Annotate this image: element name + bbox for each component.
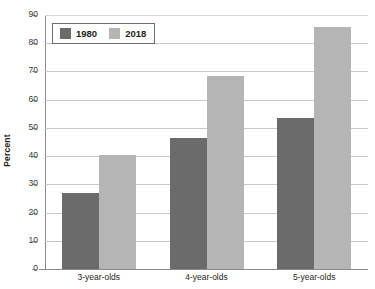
legend-entry-1980[interactable]: 1980 [60,28,97,39]
y-tick-label: 20 [12,208,38,217]
y-tick-label: 60 [12,95,38,104]
bar-2018-4-year-olds [207,76,244,269]
bars-layer [45,15,368,269]
y-tick-label: 50 [12,123,38,132]
y-tick-label: 80 [12,38,38,47]
x-axis-label-5-year-olds: 5-year-olds [260,272,368,282]
legend-label-1980: 1980 [76,29,97,39]
x-axis-line [39,269,368,270]
x-axis-label-4-year-olds: 4-year-olds [153,272,261,282]
bar-1980-3-year-olds [62,193,99,269]
legend-swatch-1980 [60,28,71,39]
bar-1980-5-year-olds [277,118,314,269]
y-tick-label: 10 [12,236,38,245]
x-axis-category-labels: 3-year-olds4-year-olds5-year-olds [45,272,368,288]
legend-entry-2018[interactable]: 2018 [109,28,146,39]
y-tick-label: 40 [12,151,38,160]
legend-swatch-2018 [109,28,120,39]
legend-label-2018: 2018 [125,29,146,39]
y-tick-label: 90 [12,10,38,19]
bar-1980-4-year-olds [170,138,207,269]
y-axis-ticks: 0102030405060708090 [0,15,38,269]
y-tick-label: 30 [12,179,38,188]
legend: 19802018 [52,23,155,44]
bar-chart: Percent 0102030405060708090 3-year-olds4… [0,0,375,289]
bar-2018-3-year-olds [99,155,136,269]
y-tick-label: 70 [12,66,38,75]
x-axis-label-3-year-olds: 3-year-olds [45,272,153,282]
y-tick-label: 0 [12,264,38,273]
bar-2018-5-year-olds [314,27,351,269]
